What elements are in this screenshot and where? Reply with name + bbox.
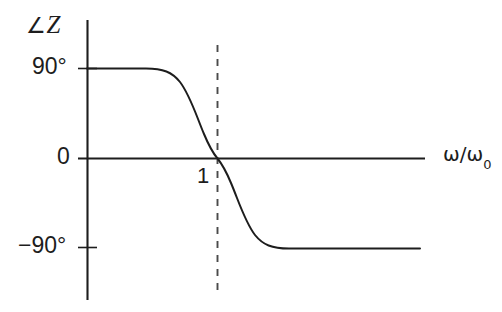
phase-angle-plot-figure: ∠Z 90° 0 −90° 1 ω/ω0: [0, 0, 502, 312]
y-tick-label-neg90: −90°: [18, 234, 66, 257]
x-axis-label: ω/ω0: [443, 144, 492, 168]
x-tick-label-1: 1: [197, 165, 209, 187]
angle-symbol-icon: ∠: [26, 15, 47, 37]
y-axis-label: ∠Z: [26, 12, 61, 37]
x-axis-label-slash: /: [460, 142, 467, 166]
x-axis-label-denominator: ω: [467, 142, 484, 166]
y-tick-label-90: 90°: [32, 55, 67, 78]
x-axis-label-subscript: 0: [483, 157, 491, 172]
plot-canvas: [0, 0, 502, 312]
y-axis-variable: Z: [47, 11, 61, 38]
x-axis-label-numerator: ω: [443, 142, 460, 166]
y-tick-label-0: 0: [57, 145, 70, 168]
